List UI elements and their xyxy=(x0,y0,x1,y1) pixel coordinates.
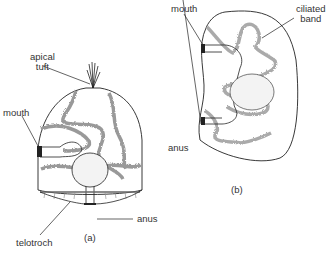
label-anus-b: anus xyxy=(168,143,189,153)
diagram-drawing xyxy=(0,0,329,258)
label-ciliated-band: ciliated band xyxy=(296,4,326,24)
mouth-opening-b xyxy=(201,44,205,53)
stomach xyxy=(72,153,108,187)
larva-b xyxy=(183,0,298,161)
label-ciliated-line2: band xyxy=(296,14,326,24)
larva-diagram: apical tuft mouth anus telotroch (a) mou… xyxy=(0,0,329,258)
label-anus-a: anus xyxy=(137,214,158,224)
label-mouth-b: mouth xyxy=(171,4,197,14)
mouth-opening xyxy=(37,146,42,157)
label-apical-tuft: apical tuft xyxy=(30,52,55,72)
label-mouth-a: mouth xyxy=(3,108,29,118)
anus-opening-b xyxy=(201,117,205,125)
larva-a xyxy=(22,62,142,235)
label-telotroch: telotroch xyxy=(16,238,52,248)
caption-b: (b) xyxy=(231,185,243,195)
apical-tuft-icon xyxy=(87,62,100,88)
caption-a: (a) xyxy=(84,233,96,243)
label-apical-line2: tuft xyxy=(30,62,55,72)
